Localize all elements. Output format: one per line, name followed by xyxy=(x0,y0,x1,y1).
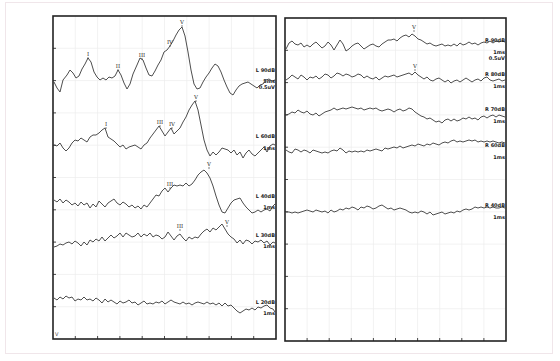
peak-marker: V xyxy=(412,63,418,69)
trace-label: L 90dB xyxy=(256,67,275,73)
peak-marker: V xyxy=(179,19,185,25)
cursor-marker: V xyxy=(55,331,59,337)
peak-marker: I xyxy=(105,121,107,127)
peak-marker: III xyxy=(157,119,164,125)
trace-label: L 30dB xyxy=(256,232,275,238)
trace-label: L 20dB xyxy=(256,299,275,305)
trace-label: R 90dB xyxy=(485,37,505,43)
peak-marker: V xyxy=(206,161,212,167)
abr-waveform-chart: IIIIIIIVVL 90dB5ms0.5uVIIIIIVVL 60dB1msI… xyxy=(0,0,560,361)
peak-marker: II xyxy=(116,63,120,69)
peak-marker: I xyxy=(87,51,89,57)
scale-label: 1ms xyxy=(263,145,275,151)
trace-label: R 40dB xyxy=(485,202,505,208)
peak-marker: III xyxy=(139,52,146,58)
peak-marker: III xyxy=(167,181,174,187)
trace-label: R 60dB xyxy=(485,142,505,148)
peak-marker: V xyxy=(411,24,417,30)
scale-label: 1ms xyxy=(263,204,275,210)
scale-label: 0.5uV xyxy=(259,84,275,90)
trace-label: L 60dB xyxy=(256,133,275,139)
scale-label: 0.5uV xyxy=(489,55,505,61)
scale-label: 1ms xyxy=(263,243,275,249)
trace-label: R 80dB xyxy=(485,71,505,77)
peak-marker: V xyxy=(193,94,199,100)
scale-label: 1ms xyxy=(493,118,505,124)
scale-label: 1ms xyxy=(493,154,505,160)
trace-label: L 40dB xyxy=(256,193,275,199)
peak-marker: III xyxy=(177,223,184,229)
scale-label: 1ms xyxy=(263,310,275,316)
peak-marker: V xyxy=(224,219,230,225)
left-ear-panel: IIIIIIIVVL 90dB5ms0.5uVIIIIIVVL 60dB1msI… xyxy=(53,16,276,339)
scale-label: 1ms xyxy=(493,214,505,220)
scale-label: 1ms xyxy=(493,83,505,89)
trace-label: R 70dB xyxy=(485,106,505,112)
peak-marker: IV xyxy=(167,39,174,45)
right-ear-panel: VR 90dB1ms0.5uVVR 80dB1msR 70dB1msR 60dB… xyxy=(285,18,506,341)
peak-marker: IV xyxy=(169,121,176,127)
